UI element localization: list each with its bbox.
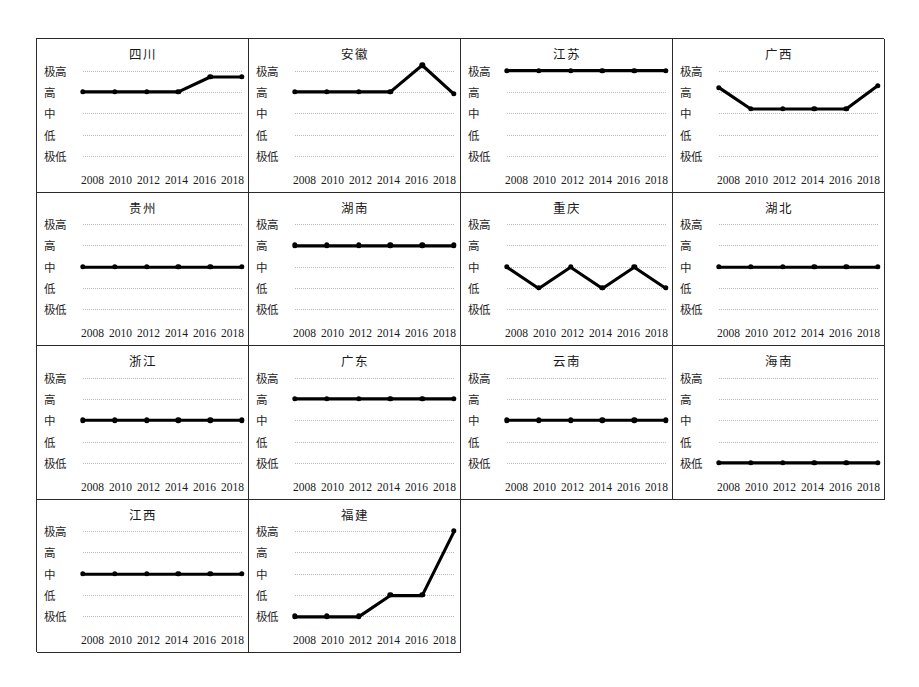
x-tick-label: 2008: [293, 481, 316, 493]
y-axis-label: 低: [680, 280, 691, 296]
data-point: [875, 264, 880, 269]
plot-area: [295, 215, 454, 320]
x-tick-label: 2010: [745, 481, 768, 493]
y-axis-label: 极高: [44, 216, 66, 232]
x-tick-label: 2012: [349, 481, 372, 493]
plot-area: [295, 368, 454, 473]
data-point: [451, 243, 456, 248]
y-axis-label: 极高: [468, 63, 490, 79]
x-tick-label: 2018: [221, 634, 244, 646]
y-axis-label: 中: [256, 412, 267, 428]
plot-area: [83, 215, 242, 320]
x-tick-label: 2010: [109, 481, 132, 493]
y-axis-label: 极高: [44, 63, 66, 79]
y-axis-label: 中: [44, 259, 55, 275]
y-axis-label: 高: [680, 84, 691, 100]
chart-panel: 贵州极高高中低极低200820102012201420162018: [37, 193, 249, 347]
chart-panel: 四川极高高中低极低200820102012201420162018: [37, 39, 249, 193]
plot-area: [719, 61, 878, 166]
x-tick-label: 2018: [221, 327, 244, 339]
y-axis-label: 极高: [256, 63, 278, 79]
panel-四川: 四川极高高中低极低200820102012201420162018: [37, 39, 248, 192]
panel-贵州: 贵州极高高中低极低200820102012201420162018: [37, 193, 248, 346]
x-tick-label: 2012: [561, 481, 584, 493]
x-tick-label: 2008: [717, 174, 740, 186]
data-point: [239, 264, 244, 269]
x-tick-label: 2012: [349, 174, 372, 186]
x-axis-ticks: 200820102012201420162018: [81, 481, 244, 493]
small-multiples-grid: 四川极高高中低极低200820102012201420162018安徽极高高中低…: [36, 38, 884, 652]
x-tick-label: 2012: [773, 481, 796, 493]
empty-panel-cell: [461, 500, 673, 654]
y-axis-label: 高: [44, 237, 55, 253]
chart-panel: 重庆极高高中低极低200820102012201420162018: [461, 193, 673, 347]
x-tick-label: 2008: [81, 174, 104, 186]
panel-云南: 云南极高高中低极低200820102012201420162018: [461, 346, 672, 499]
x-tick-label: 2016: [193, 174, 216, 186]
series-line: [295, 65, 454, 94]
x-tick-label: 2008: [505, 327, 528, 339]
empty-panel-cell: [673, 500, 885, 654]
x-tick-label: 2008: [717, 481, 740, 493]
x-tick-label: 2012: [561, 327, 584, 339]
y-axis-label: 高: [468, 84, 479, 100]
y-axis-label: 中: [468, 259, 479, 275]
series-line: [295, 531, 454, 616]
y-axis-label: 极低: [256, 455, 278, 471]
x-axis-ticks: 200820102012201420162018: [293, 327, 456, 339]
data-point: [875, 83, 880, 88]
x-tick-label: 2008: [505, 481, 528, 493]
y-axis-label: 高: [256, 237, 267, 253]
x-tick-label: 2012: [773, 174, 796, 186]
y-axis-label: 中: [256, 566, 267, 582]
x-tick-label: 2016: [193, 481, 216, 493]
y-axis-label: 极高: [44, 523, 66, 539]
panel-海南: 海南极高高中低极低200820102012201420162018: [673, 346, 884, 499]
plot-area: [507, 215, 666, 320]
y-axis-label: 极高: [44, 370, 66, 386]
data-point: [239, 418, 244, 423]
x-tick-label: 2016: [193, 327, 216, 339]
x-tick-label: 2008: [293, 174, 316, 186]
x-tick-label: 2010: [321, 634, 344, 646]
x-tick-label: 2018: [857, 327, 880, 339]
series-line: [507, 267, 666, 288]
y-axis-label: 极高: [468, 216, 490, 232]
x-axis-ticks: 200820102012201420162018: [717, 174, 880, 186]
x-tick-label: 2008: [717, 327, 740, 339]
y-axis-label: 低: [44, 587, 55, 603]
x-tick-label: 2014: [589, 174, 612, 186]
x-tick-label: 2012: [137, 327, 160, 339]
x-tick-label: 2018: [645, 481, 668, 493]
data-point: [451, 91, 456, 96]
panel-浙江: 浙江极高高中低极低200820102012201420162018: [37, 346, 248, 499]
y-axis-label: 低: [44, 434, 55, 450]
y-axis-label: 极低: [256, 301, 278, 317]
y-axis-label: 极低: [44, 608, 66, 624]
y-axis-label: 极低: [44, 148, 66, 164]
x-tick-label: 2016: [829, 174, 852, 186]
panel-江苏: 江苏极高高中低极低200820102012201420162018: [461, 39, 672, 192]
x-tick-label: 2016: [405, 174, 428, 186]
x-tick-label: 2010: [109, 327, 132, 339]
y-axis-label: 中: [680, 259, 691, 275]
x-axis-ticks: 200820102012201420162018: [505, 481, 668, 493]
chart-panel: 广东极高高中低极低200820102012201420162018: [249, 346, 461, 500]
x-tick-label: 2018: [857, 481, 880, 493]
y-axis-label: 中: [468, 105, 479, 121]
chart-panel: 湖南极高高中低极低200820102012201420162018: [249, 193, 461, 347]
x-tick-label: 2008: [81, 481, 104, 493]
x-tick-label: 2008: [293, 634, 316, 646]
y-axis-label: 高: [468, 237, 479, 253]
x-tick-label: 2016: [405, 481, 428, 493]
x-tick-label: 2016: [617, 481, 640, 493]
y-axis-label: 极低: [468, 301, 490, 317]
chart-panel: 安徽极高高中低极低200820102012201420162018: [249, 39, 461, 193]
x-tick-label: 2016: [829, 327, 852, 339]
x-tick-label: 2018: [433, 327, 456, 339]
y-axis-label: 中: [680, 105, 691, 121]
x-tick-label: 2014: [165, 481, 188, 493]
y-axis-label: 中: [44, 105, 55, 121]
x-tick-label: 2008: [505, 174, 528, 186]
x-tick-label: 2018: [433, 481, 456, 493]
